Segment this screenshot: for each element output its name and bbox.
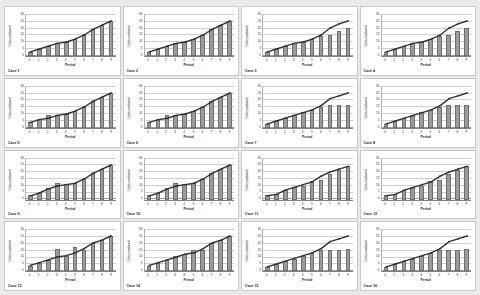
y-tick-label: 5 — [141, 262, 143, 265]
y-tick-label: 10 — [21, 112, 24, 115]
y-tick-label: 30 — [21, 157, 24, 160]
case-label: Case 10 — [127, 212, 141, 216]
bar — [100, 240, 105, 271]
y-tick-label: 0 — [141, 54, 143, 57]
bar — [274, 49, 279, 56]
y-tick-label: 20 — [21, 27, 24, 30]
bar — [346, 249, 351, 271]
bar — [301, 256, 306, 271]
y-tick-label: 5 — [22, 190, 24, 193]
y-tick-label: 5 — [141, 190, 143, 193]
y-tick-label: 30 — [376, 157, 379, 160]
y-axis-ticks: 302520151050 — [13, 13, 24, 57]
plot-area — [381, 158, 472, 201]
plot-area — [25, 158, 116, 201]
y-tick-label: 0 — [22, 197, 24, 200]
chart-area: Units produced3025201510500123456789Peri… — [242, 224, 356, 280]
chart-area: Units produced3025201510500123456789Peri… — [361, 153, 475, 209]
y-tick-label: 0 — [141, 197, 143, 200]
bar — [319, 107, 324, 128]
y-axis-ticks: 302520151050 — [13, 157, 24, 201]
bar — [209, 101, 214, 128]
case-label: Case 8 — [364, 141, 376, 145]
y-tick-label: 10 — [258, 40, 261, 43]
bar-series — [145, 14, 235, 56]
y-tick-label: 15 — [376, 105, 379, 108]
bar — [82, 35, 87, 56]
y-tick-label: 15 — [258, 249, 261, 252]
y-tick-label: 10 — [21, 40, 24, 43]
y-axis-ticks: 302520151050 — [369, 13, 380, 57]
x-axis-title: Period — [262, 278, 353, 282]
y-tick-label: 5 — [141, 47, 143, 50]
bar — [393, 194, 398, 200]
y-tick-label: 5 — [141, 119, 143, 122]
case-label: Case 15 — [245, 284, 259, 288]
y-tick-label: 5 — [378, 190, 380, 193]
bar — [455, 105, 460, 127]
bar — [73, 39, 78, 56]
bar — [165, 115, 170, 128]
y-tick-label: 15 — [258, 177, 261, 180]
bar — [147, 195, 152, 199]
bar-series — [26, 158, 116, 200]
y-tick-label: 5 — [378, 47, 380, 50]
plot-area — [25, 14, 116, 57]
bar — [28, 52, 33, 56]
y-axis-ticks: 302520151050 — [250, 85, 261, 129]
case-label: Case 4 — [364, 69, 376, 73]
bar — [301, 42, 306, 56]
y-tick-label: 0 — [378, 126, 380, 129]
bar — [218, 25, 223, 56]
x-axis-title: Period — [144, 135, 235, 139]
chart-area: Units produced3025201510500123456789Peri… — [5, 81, 119, 137]
chart-panel: Units produced3025201510500123456789Peri… — [4, 6, 121, 76]
plot-area — [25, 86, 116, 129]
y-axis-ticks: 302520151050 — [13, 228, 24, 272]
chart-area: Units produced3025201510500123456789Peri… — [361, 9, 475, 65]
x-axis-title: Period — [262, 135, 353, 139]
bar — [100, 169, 105, 200]
bar-series — [26, 229, 116, 271]
y-tick-label: 10 — [376, 255, 379, 258]
plot-area — [144, 158, 235, 201]
bar — [292, 187, 297, 200]
bar — [109, 165, 114, 200]
y-tick-label: 10 — [21, 184, 24, 187]
y-tick-label: 0 — [378, 54, 380, 57]
bar — [310, 181, 315, 199]
y-tick-label: 20 — [376, 170, 379, 173]
bar — [337, 170, 342, 199]
bar — [393, 264, 398, 271]
chart-area: Units produced3025201510500123456789Peri… — [124, 224, 238, 280]
bar — [328, 250, 333, 271]
plot-area — [25, 229, 116, 272]
y-axis-ticks: 302520151050 — [132, 228, 143, 272]
bar — [64, 184, 69, 199]
bar — [283, 46, 288, 56]
bar — [182, 42, 187, 56]
y-tick-label: 25 — [376, 92, 379, 95]
bar-series — [263, 14, 353, 56]
bar — [464, 105, 469, 127]
chart-area: Units produced3025201510500123456789Peri… — [242, 153, 356, 209]
y-tick-label: 15 — [21, 249, 24, 252]
chart-panel: Units produced3025201510500123456789Peri… — [241, 150, 358, 220]
case-label: Case 12 — [364, 212, 378, 216]
bar — [182, 254, 187, 271]
y-tick-label: 20 — [139, 242, 142, 245]
chart-area: Units produced3025201510500123456789Peri… — [5, 153, 119, 209]
bar — [384, 124, 389, 128]
case-label: Case 5 — [8, 141, 20, 145]
y-tick-label: 25 — [139, 20, 142, 23]
y-tick-label: 30 — [21, 13, 24, 16]
y-tick-label: 25 — [139, 235, 142, 238]
bar — [28, 122, 33, 128]
x-axis-title: Period — [262, 207, 353, 211]
bar — [173, 183, 178, 200]
y-tick-label: 25 — [376, 235, 379, 238]
y-tick-label: 5 — [378, 262, 380, 265]
y-tick-label: 20 — [139, 170, 142, 173]
y-tick-label: 0 — [259, 197, 261, 200]
chart-area: Units produced3025201510500123456789Peri… — [242, 81, 356, 137]
